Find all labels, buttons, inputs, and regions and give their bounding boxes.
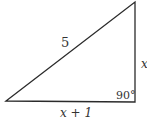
horizontal-side-label: x + 1 bbox=[60, 106, 92, 120]
right-angle-label: 90° bbox=[116, 89, 136, 102]
triangle-diagram: 5 x 90° x + 1 bbox=[0, 0, 147, 128]
hypotenuse-label: 5 bbox=[61, 35, 69, 50]
right-triangle bbox=[6, 2, 135, 102]
vertical-side-label: x bbox=[141, 57, 147, 71]
